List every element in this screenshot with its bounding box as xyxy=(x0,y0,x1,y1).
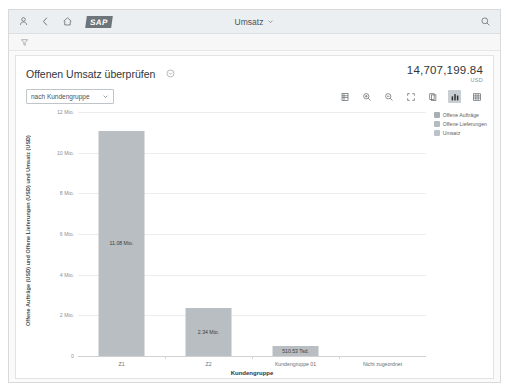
bar-value-label: 510.53 Tsd. xyxy=(282,348,309,354)
y-axis-tick-label: 6 Mio. xyxy=(60,231,74,237)
x-axis-title: Kundengruppe xyxy=(78,370,426,376)
card-title-group: Offenen Umsatz überprüfen xyxy=(26,64,175,82)
chart-toolbar-buttons xyxy=(338,90,483,103)
bar-chart: Offene Aufträge (USD) und Offene Lieferu… xyxy=(16,104,440,376)
shell-title-label: Umsatz xyxy=(235,17,264,27)
legend-toggle-icon[interactable] xyxy=(338,90,351,103)
table-view-icon[interactable] xyxy=(470,90,483,103)
x-axis-tick-label: Kundengruppe 01 xyxy=(275,361,316,367)
x-axis-separator xyxy=(165,356,166,359)
filter-bar xyxy=(9,34,500,51)
y-axis-tick-label: 2 Mio. xyxy=(60,312,74,318)
y-axis-title: Offene Aufträge (USD) und Offene Lieferu… xyxy=(20,104,36,356)
zoom-out-icon[interactable] xyxy=(382,90,395,103)
app-window: SAP Umsatz xyxy=(8,9,501,383)
fullscreen-icon[interactable] xyxy=(404,90,417,103)
chevron-down-icon xyxy=(102,93,109,101)
y-axis-tick-label: 4 Mio. xyxy=(60,272,74,278)
shell-bar-right-group xyxy=(479,15,492,28)
legend-item[interactable]: Offene Lieferungen xyxy=(434,121,487,127)
card-header: Offenen Umsatz überprüfen 14,707,199.84 … xyxy=(16,56,493,83)
filter-icon[interactable] xyxy=(18,36,31,49)
x-axis-separator xyxy=(339,356,340,359)
legend-label: Umsatz xyxy=(443,130,461,136)
bar-cell: 11.08 Mio.Z1 xyxy=(78,112,165,356)
zoom-in-icon[interactable] xyxy=(360,90,373,103)
kpi-block: 14,707,199.84 USD xyxy=(407,64,483,83)
search-icon[interactable] xyxy=(479,15,492,28)
bar-value-label: 2.34 Mio. xyxy=(198,329,219,335)
bar-cell: Nicht zugeordnet xyxy=(339,112,426,356)
chart-toolbar: nach Kundengruppe xyxy=(16,83,493,104)
bar-chart-view-icon[interactable] xyxy=(448,90,461,103)
chevron-down-icon[interactable] xyxy=(267,17,274,27)
legend-label: Offene Aufträge xyxy=(443,112,479,118)
legend-label: Offene Lieferungen xyxy=(443,121,487,127)
page-title: Offenen Umsatz überprüfen xyxy=(26,68,155,80)
legend-item[interactable]: Offene Aufträge xyxy=(434,112,487,118)
person-icon[interactable] xyxy=(17,15,30,28)
y-axis-tick-label: 8 Mio. xyxy=(60,190,74,196)
y-axis-tick-label: 12 Mio. xyxy=(57,109,74,115)
home-icon[interactable] xyxy=(61,15,74,28)
x-axis-separator xyxy=(252,356,253,359)
dimension-dropdown[interactable]: nach Kundengruppe xyxy=(26,89,114,104)
bar-cell: 510.53 Tsd.Kundengruppe 01 xyxy=(252,112,339,356)
kpi-value: 14,707,199.84 xyxy=(407,64,483,76)
shell-bar: SAP Umsatz xyxy=(9,10,500,34)
sap-logo: SAP xyxy=(85,16,113,28)
copy-icon[interactable] xyxy=(426,90,439,103)
x-axis-tick-label: Nicht zugeordnet xyxy=(363,361,402,367)
y-axis-tick-label: 10 Mio. xyxy=(57,150,74,156)
bar-group: 11.08 Mio.Z12.34 Mio.Z2510.53 Tsd.Kunden… xyxy=(78,112,426,356)
chart-legend: Offene Aufträge Offene Lieferungen Umsat… xyxy=(434,112,487,136)
kpi-unit: USD xyxy=(407,77,483,83)
y-axis-tick-label: 0 xyxy=(71,353,74,359)
back-chevron-icon[interactable] xyxy=(39,15,52,28)
bar-cell: 2.34 Mio.Z2 xyxy=(165,112,252,356)
bar-value-label: 11.08 Mio. xyxy=(110,240,134,246)
x-axis-tick-label: Z1 xyxy=(118,361,124,367)
chevron-down-circle-icon[interactable] xyxy=(166,69,175,78)
dimension-dropdown-value: nach Kundengruppe xyxy=(31,93,102,100)
analytics-card: Offenen Umsatz überprüfen 14,707,199.84 … xyxy=(15,55,494,379)
x-axis-tick-label: Z2 xyxy=(205,361,211,367)
legend-item[interactable]: Umsatz xyxy=(434,130,487,136)
plot-area: 02 Mio.4 Mio.6 Mio.8 Mio.10 Mio.12 Mio.1… xyxy=(78,112,426,356)
shell-bar-left-group: SAP xyxy=(17,15,112,28)
